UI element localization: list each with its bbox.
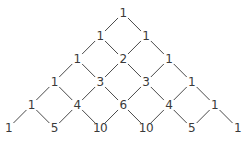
connector-line [174, 64, 187, 77]
connector-line [105, 18, 118, 31]
triangle-number: 1 [234, 122, 241, 134]
connector-line [13, 110, 26, 123]
triangle-number: 1 [211, 99, 218, 111]
connector-line [105, 87, 118, 100]
connector-line [197, 110, 210, 123]
connector-line [59, 110, 72, 123]
connector-line [151, 64, 164, 77]
connector-line [36, 110, 49, 123]
connector-line [151, 87, 164, 100]
triangle-number: 1 [165, 53, 172, 65]
pascals-triangle-diagram: 11112113311464115101051 [0, 0, 249, 149]
connector-line [128, 87, 141, 100]
connector-line [197, 87, 210, 100]
triangle-number: 10 [139, 122, 153, 134]
connector-line [82, 64, 95, 77]
triangle-number: 1 [28, 99, 35, 111]
triangle-number: 1 [74, 53, 81, 65]
triangle-number: 5 [51, 122, 58, 134]
triangle-number: 1 [51, 76, 58, 88]
triangle-number: 10 [93, 122, 107, 134]
connector-line [105, 41, 118, 54]
triangle-number: 1 [119, 7, 126, 19]
triangle-number: 1 [97, 30, 104, 42]
connector-line [105, 64, 118, 77]
connector-line [128, 18, 141, 31]
triangle-number: 3 [97, 76, 104, 88]
triangle-number: 5 [188, 122, 195, 134]
triangle-number: 1 [5, 122, 12, 134]
connector-line [82, 41, 95, 54]
triangle-number: 4 [74, 99, 81, 111]
connector-lines [0, 0, 249, 149]
triangle-number: 4 [165, 99, 172, 111]
connector-line [174, 110, 187, 123]
triangle-number: 6 [119, 99, 126, 111]
connector-line [36, 87, 49, 100]
triangle-number: 1 [188, 76, 195, 88]
connector-line [128, 41, 141, 54]
connector-line [220, 110, 233, 123]
connector-line [128, 64, 141, 77]
connector-line [174, 87, 187, 100]
triangle-number: 1 [142, 30, 149, 42]
connector-line [59, 87, 72, 100]
triangle-number: 2 [119, 53, 126, 65]
connector-line [151, 41, 164, 54]
connector-line [82, 87, 95, 100]
triangle-number: 3 [142, 76, 149, 88]
connector-line [59, 64, 72, 77]
